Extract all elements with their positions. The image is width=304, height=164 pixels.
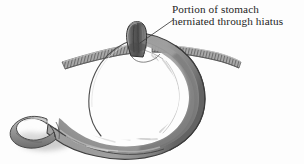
- caption-label: Portion of stomach herniated through hia…: [172, 3, 304, 27]
- hiatal-hernia-figure: Portion of stomach herniated through hia…: [0, 0, 304, 164]
- hiatus-ring: [127, 43, 147, 51]
- caption-line-1: Portion of stomach: [172, 3, 304, 15]
- caption-line-2: herniated through hiatus: [172, 15, 304, 27]
